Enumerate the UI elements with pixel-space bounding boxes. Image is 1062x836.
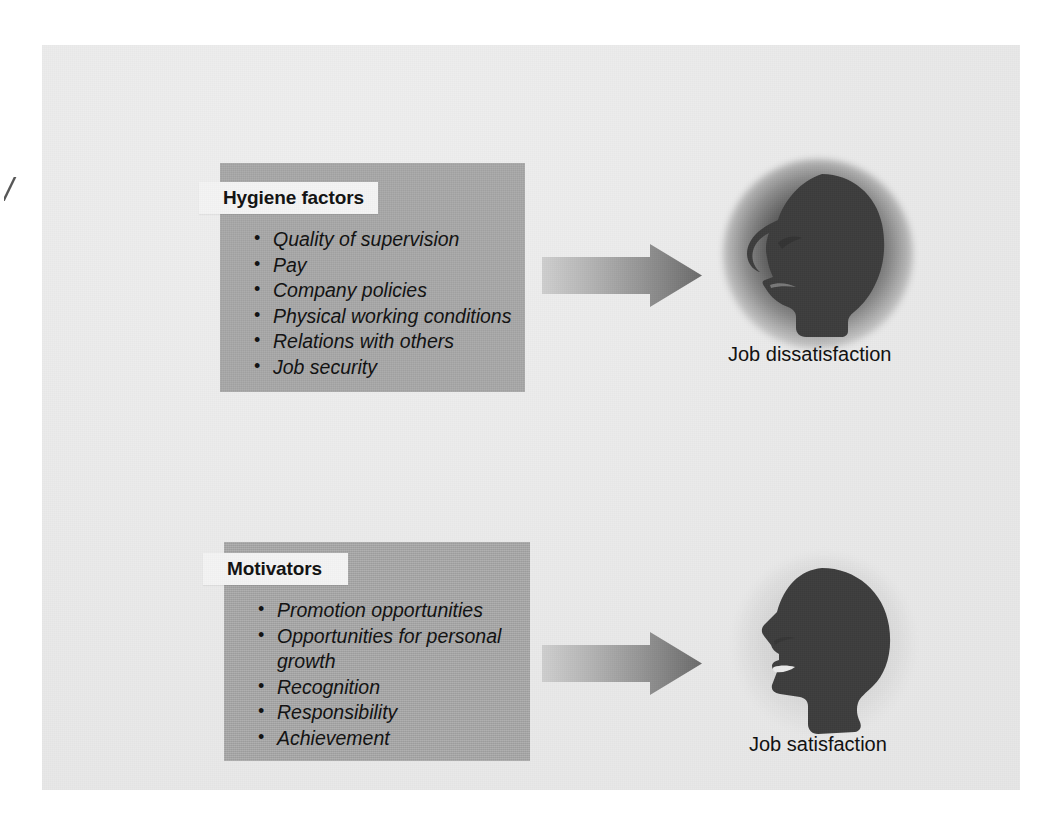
motivators-title-band: Motivators (203, 553, 348, 585)
list-item: Job security (254, 355, 524, 381)
list-item: Achievement (258, 726, 530, 752)
hygiene-factors-list: Quality of supervision Pay Company polic… (254, 227, 524, 380)
motivators-list: Promotion opportunities Opportunities fo… (258, 598, 530, 751)
list-item: Physical working conditions (254, 304, 524, 330)
hygiene-factors-title-band: Hygiene factors (199, 182, 378, 214)
list-item: Pay (254, 253, 524, 279)
job-dissatisfaction-illustration (714, 155, 924, 355)
list-item: Quality of supervision (254, 227, 524, 253)
smiling-head-profile-icon (750, 566, 900, 741)
job-satisfaction-caption: Job satisfaction (749, 733, 887, 756)
frowning-head-profile-icon (744, 171, 894, 346)
diagram-canvas: Hygiene factors Quality of supervision P… (42, 45, 1020, 790)
list-item: Company policies (254, 278, 524, 304)
arrow-right-icon-hygiene (542, 244, 702, 307)
list-item: Recognition (258, 675, 530, 701)
list-item: Responsibility (258, 700, 530, 726)
job-satisfaction-illustration (724, 550, 924, 745)
hygiene-factors-title: Hygiene factors (199, 187, 364, 209)
list-item: Promotion opportunities (258, 598, 530, 624)
job-dissatisfaction-caption: Job dissatisfaction (728, 343, 891, 366)
figure-root: / Hygiene factors Quality of supervision… (0, 0, 1062, 836)
motivators-title: Motivators (203, 558, 322, 580)
list-item: Relations with others (254, 329, 524, 355)
arrow-right-icon-motivators (542, 632, 702, 695)
list-item: Opportunities for personal growth (258, 624, 530, 675)
page-margin-bleed-mark: / (4, 168, 30, 210)
